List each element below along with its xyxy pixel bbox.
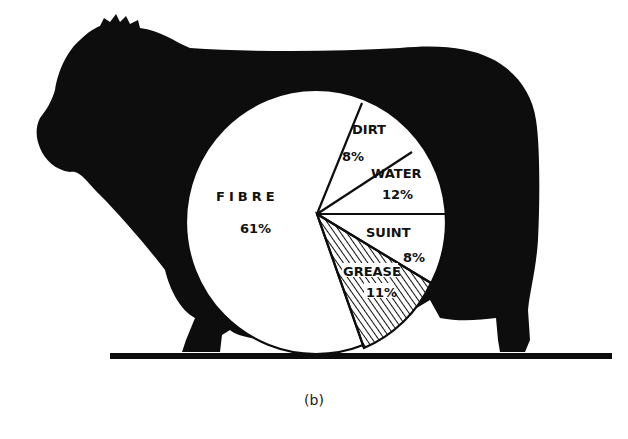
pie-chart — [186, 90, 446, 354]
label-dirt-name: DIRT — [352, 122, 386, 137]
label-grease-value: 11% — [366, 285, 397, 300]
figure-caption: (b) — [0, 392, 628, 408]
sheep-pie-figure: FIBRE 61% DIRT 8% WATER 12% SUINT 8% GRE… — [0, 0, 628, 439]
label-grease-name: GREASE — [343, 264, 401, 279]
label-fibre-name: FIBRE — [216, 189, 279, 204]
label-suint-value: 8% — [403, 250, 425, 265]
label-fibre-value: 61% — [240, 221, 271, 236]
label-water-value: 12% — [382, 187, 413, 202]
label-suint-name: SUINT — [366, 225, 411, 240]
ground-line — [110, 353, 612, 359]
label-water-name: WATER — [371, 166, 422, 181]
label-dirt-value: 8% — [342, 149, 364, 164]
